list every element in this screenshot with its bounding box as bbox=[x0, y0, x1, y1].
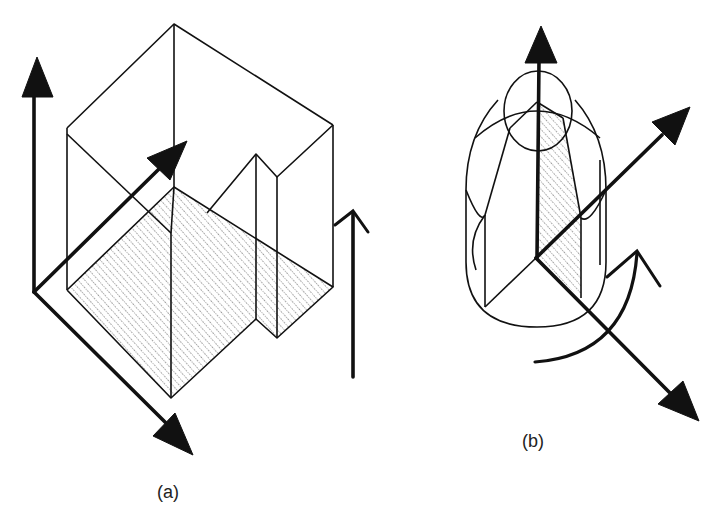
section-plane-fill-b bbox=[536, 102, 581, 298]
panel-b: (b) bbox=[466, 26, 699, 451]
panel-label-b: (b) bbox=[522, 431, 544, 451]
axis-z-a bbox=[22, 57, 53, 292]
panel-a: (a) bbox=[22, 24, 368, 502]
translation-arrow bbox=[335, 211, 368, 377]
panel-label-a: (a) bbox=[157, 482, 179, 502]
axis-x-b bbox=[536, 258, 699, 421]
figure-canvas: (a) bbox=[0, 0, 709, 522]
